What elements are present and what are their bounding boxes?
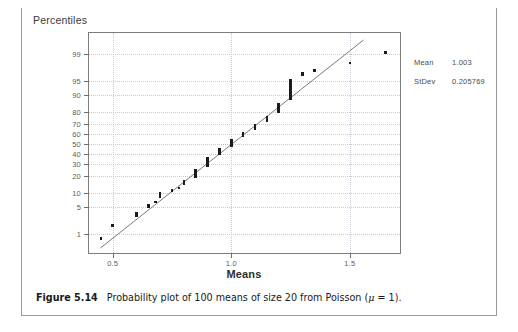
data-point [154,201,157,204]
figure-caption-text: Probability plot of 100 means of size 20… [107,292,402,303]
data-point [111,224,114,227]
figure-page: Percentiles 151020304050607080909599 0.5… [0,0,518,332]
legend-row: StDev0.205769 [414,77,485,86]
figure-caption: Figure 5.14Probability plot of 100 means… [36,292,486,303]
plot-frame: 151020304050607080909599 0.51.01.5 [88,32,401,254]
y-axis-title: Percentiles [33,14,87,26]
data-point [266,116,269,122]
y-tick-label: 90 [72,90,81,99]
data-point [178,187,181,190]
y-tick-label: 80 [72,107,81,116]
y-tick-label: 95 [72,76,81,85]
x-tick-label: 0.5 [107,259,118,268]
data-point [301,72,304,76]
data-point [277,103,280,114]
x-tick-label: 1.5 [344,259,355,268]
y-tick-label: 70 [72,119,81,128]
y-tick-label: 20 [72,172,81,181]
page-border-bottom [21,315,497,316]
y-tick-label: 60 [72,130,81,139]
data-point [206,157,209,168]
data-point [254,124,257,130]
data-point [194,169,197,178]
y-tick-label: 30 [72,160,81,169]
legend-key: StDev [414,77,452,86]
y-tick-label: 5 [77,203,81,212]
legend-value: 1.003 [452,58,472,67]
legend-row: Mean1.003 [414,58,485,67]
data-point [218,148,221,155]
y-tick-label: 1 [77,229,81,238]
fit-line [89,33,402,255]
y-tick-label: 50 [72,140,81,149]
data-point [384,51,387,54]
mu-symbol: μ [368,292,374,303]
data-point [313,69,316,72]
x-axis-title: Means [226,268,261,280]
data-point [159,192,162,199]
statistics-legend: Mean1.003StDev0.205769 [414,58,485,96]
data-point [289,79,292,100]
data-point [183,180,186,185]
y-tick-label: 40 [72,149,81,158]
figure-number: Figure 5.14 [36,292,98,303]
x-tick-label: 1.0 [226,259,237,268]
data-point [135,212,138,217]
data-point [147,204,150,208]
y-tick-label: 99 [72,50,81,59]
data-point [242,132,245,137]
legend-key: Mean [414,58,452,67]
data-point [349,62,352,65]
y-tick-label: 10 [72,189,81,198]
probability-plot: Percentiles 151020304050607080909599 0.5… [0,0,518,280]
data-point [100,237,103,240]
legend-value: 0.205769 [452,77,485,86]
data-point [171,189,174,192]
data-point [230,139,233,146]
